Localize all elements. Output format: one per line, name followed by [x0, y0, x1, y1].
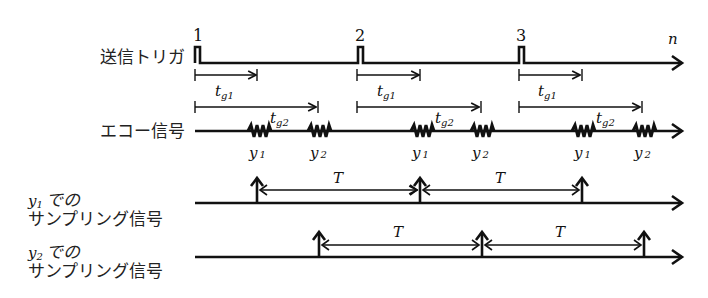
sampling-signal-y2	[195, 232, 682, 264]
period-label-T: T	[495, 169, 506, 187]
echo-burst-y2	[471, 125, 494, 137]
axis-label-n: n	[668, 30, 678, 48]
period-label-T: T	[555, 223, 566, 241]
sampling-signal-y1	[195, 178, 682, 210]
delay-label-tg2: tg2	[596, 109, 615, 128]
pulse-number-1: 1	[193, 26, 203, 45]
delay-label-tg2: tg2	[270, 109, 289, 128]
row-label-sampling-y2: y2での サンプリング信号	[27, 242, 163, 281]
delay-label-tg2: tg2	[435, 109, 454, 128]
svg-text:y2での: y2での	[27, 242, 81, 262]
delay-label-tg1: tg1	[215, 82, 234, 101]
echo-burst-y2	[633, 125, 656, 137]
period-label-T: T	[333, 169, 344, 187]
delay-label-tg1: tg1	[538, 82, 557, 101]
pulse-number-3: 3	[516, 26, 526, 45]
svg-text:サンプリング信号: サンプリング信号	[28, 209, 163, 229]
echo-label-y2: y2	[309, 144, 327, 162]
period-label-T: T	[393, 223, 404, 241]
echo-label-y2: y2	[471, 144, 489, 162]
echo-burst-y1	[572, 125, 595, 137]
echo-label-y1: y1	[573, 144, 591, 162]
echo-burst-y1	[248, 125, 271, 137]
delay-label-tg1: tg1	[377, 82, 396, 101]
delay-arrows	[195, 69, 642, 113]
row-label-echo: エコー信号	[100, 121, 185, 141]
echo-label-y1: y1	[411, 144, 429, 162]
row-label-trigger: 送信トリガ	[100, 47, 185, 67]
svg-text:y1での: y1での	[27, 190, 81, 210]
echo-burst-y2	[308, 125, 331, 137]
svg-text:サンプリング信号: サンプリング信号	[28, 261, 163, 281]
echo-burst-y1	[411, 125, 434, 137]
row-label-sampling-y1: y1での サンプリング信号	[27, 190, 163, 229]
pulse-number-2: 2	[355, 26, 365, 45]
echo-label-y1: y1	[248, 144, 266, 162]
timing-diagram: 送信トリガ エコー信号 y1での サンプリング信号 y2での サンプリング信号 …	[0, 0, 708, 298]
trigger-signal	[195, 47, 682, 70]
echo-label-y2: y2	[633, 144, 651, 162]
